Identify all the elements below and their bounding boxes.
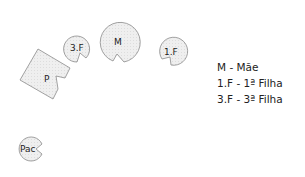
first-daughter-node: 1.F xyxy=(160,37,188,65)
legend: M - Mãe 1.F - 1ª Filha 3.F - 3ª Filha xyxy=(217,59,283,107)
mother-node: M xyxy=(100,22,140,62)
legend-item-third-daughter: 3.F - 3ª Filha xyxy=(217,91,283,107)
patient-node: Pac xyxy=(19,137,42,161)
legend-item-first-daughter: 1.F - 1ª Filha xyxy=(217,75,283,91)
third-daughter-node: 3.F xyxy=(64,36,90,62)
patient-label: Pac xyxy=(20,144,36,154)
mother-label: M xyxy=(114,37,122,47)
third-daughter-label: 3.F xyxy=(70,43,84,53)
father-label: P xyxy=(44,74,50,84)
first-daughter-label: 1.F xyxy=(164,47,178,57)
legend-item-mother: M - Mãe xyxy=(217,59,283,75)
father-node: P xyxy=(20,49,70,99)
